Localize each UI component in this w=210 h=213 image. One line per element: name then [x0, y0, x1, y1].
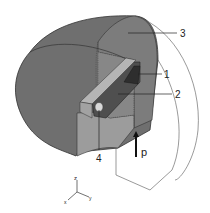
cutaway-diagram: 1 2 3 4 p z y x [0, 0, 210, 213]
axis-z-label: z [74, 175, 77, 181]
label-2: 2 [175, 89, 181, 100]
axis-x-label: x [64, 199, 67, 205]
force-label: p [141, 146, 147, 158]
label-3: 3 [180, 28, 186, 39]
axes-triad: z y x [64, 175, 92, 205]
label-1: 1 [164, 69, 170, 80]
label-4: 4 [96, 153, 102, 164]
axis-y-label: y [89, 195, 92, 201]
